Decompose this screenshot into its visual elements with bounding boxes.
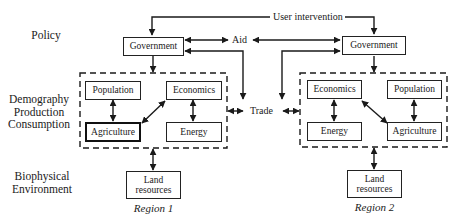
region1-land-line: Land — [144, 175, 164, 186]
user-intervention-arrow-left — [152, 17, 270, 35]
region1-resources-line: resources — [136, 185, 172, 196]
region1-economics-box: Economics — [166, 81, 222, 100]
trade-label: Trade — [248, 105, 275, 116]
region1-government-box: Government — [123, 37, 184, 56]
layer-label-biophysical-line: Biophysical — [8, 170, 76, 183]
r1-agriculture-economics-arrow — [142, 101, 165, 123]
region2-energy-box: Energy — [307, 122, 362, 141]
layer-label-demography-line: Demography — [0, 93, 78, 106]
region1-land-resources-box: Land resources — [126, 171, 181, 199]
layer-label-policy: Policy — [18, 29, 74, 42]
region2-government-box: Government — [342, 36, 406, 55]
aid-label: Aid — [230, 34, 249, 45]
region1-energy-box: Energy — [166, 122, 222, 142]
region1-population-box: Population — [85, 81, 141, 100]
user-intervention-label: User intervention — [271, 11, 345, 22]
layer-label-production-line: Production — [0, 106, 78, 119]
region1-agriculture-box: Agriculture — [85, 122, 141, 142]
layer-label-biophysical: Biophysical Environment — [8, 170, 76, 195]
region2-resources-line: resources — [357, 184, 393, 195]
region2-population-box: Population — [387, 80, 442, 99]
region2-label: Region 2 — [347, 201, 402, 213]
region2-land-line: Land — [365, 174, 385, 185]
region2-land-resources-box: Land resources — [347, 170, 402, 198]
layer-label-demography: Demography Production Consumption — [0, 93, 78, 131]
two-region-model-diagram: Policy Demography Production Consumption… — [0, 0, 463, 222]
region2-economics-box: Economics — [307, 80, 362, 99]
region1-label: Region 1 — [126, 202, 181, 214]
layer-label-environment-line: Environment — [8, 183, 76, 196]
r2-economics-agriculture-arrow — [362, 101, 387, 123]
region2-agriculture-box: Agriculture — [387, 122, 442, 141]
layer-label-consumption-line: Consumption — [0, 118, 78, 131]
